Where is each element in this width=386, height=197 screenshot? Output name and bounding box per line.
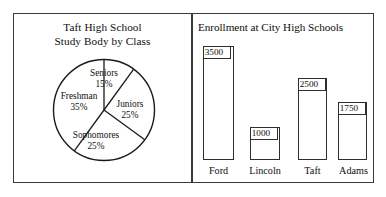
pie-slice-percent-freshman: 35% [53, 102, 105, 113]
pie-chart-panel: Taft High School Study Body by Class Sen… [14, 14, 191, 182]
bar-label-adams: Adams [331, 165, 376, 177]
pie-slice-name-freshman: Freshman [53, 91, 105, 102]
figure-root: Taft High School Study Body by Class Sen… [0, 0, 386, 197]
bar-adams: 1750 [338, 102, 367, 160]
bar-chart-panel: Enrollment at City High Schools 3500 For… [193, 14, 374, 182]
bar-value-lincoln: 1000 [250, 127, 278, 140]
bar-lincoln: 1000 [250, 127, 280, 160]
pie-title-line-2: Study Body by Class [14, 35, 191, 49]
bar-label-ford: Ford [197, 165, 240, 177]
bar-label-lincoln: Lincoln [241, 165, 289, 177]
bar-label-taft: Taft [292, 165, 333, 177]
pie-slice-name-juniors: Juniors [106, 99, 154, 110]
pie-slice-label-freshman: Freshman 35% [53, 91, 105, 112]
pie-slice-label-sophomores: Sophomores 25% [63, 130, 129, 151]
pie-slice-label-seniors: Seniors 15% [78, 68, 130, 89]
pie-title-line-1: Taft High School [14, 21, 191, 35]
pie-chart-graphic: Seniors 15% Juniors 25% Sophomores 25% F… [52, 58, 156, 162]
pie-slice-name-seniors: Seniors [78, 68, 130, 79]
pie-slice-percent-seniors: 15% [78, 79, 130, 90]
pie-chart-title: Taft High School Study Body by Class [14, 21, 191, 48]
bar-value-adams: 1750 [338, 102, 366, 115]
bar-taft: 2500 [298, 78, 327, 160]
pie-slice-percent-sophomores: 25% [63, 141, 129, 152]
pie-slice-label-juniors: Juniors 25% [106, 99, 154, 120]
pie-slice-name-sophomores: Sophomores [63, 130, 129, 141]
bar-value-taft: 2500 [298, 78, 326, 91]
bar-value-ford: 3500 [203, 46, 231, 59]
bar-ford: 3500 [203, 46, 234, 160]
pie-slice-percent-juniors: 25% [106, 110, 154, 121]
bar-chart-title: Enrollment at City High Schools [198, 21, 374, 35]
bar-chart-plot-area: 3500 Ford 1000 Lincoln 2500 Taft 1750 Ad… [197, 38, 373, 182]
